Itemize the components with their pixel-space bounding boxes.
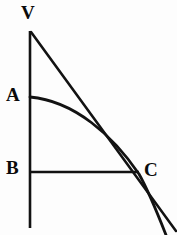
vertex-label-v: V xyxy=(21,3,35,22)
vertex-label-c: C xyxy=(144,160,158,179)
vertex-label-a: A xyxy=(6,85,20,104)
figure-canvas xyxy=(0,0,177,235)
vertex-label-b: B xyxy=(6,158,19,177)
geometric-figure: V A B C xyxy=(0,0,177,235)
